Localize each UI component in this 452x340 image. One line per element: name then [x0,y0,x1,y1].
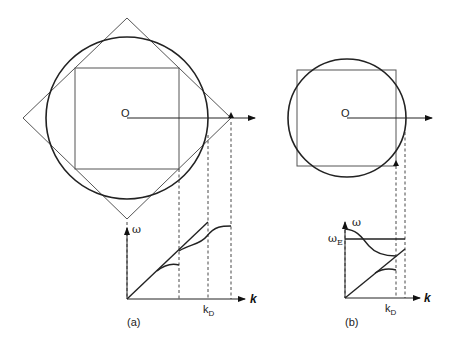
omega-label: ω [132,223,141,236]
origin-label-b: O [341,107,350,119]
branch-2 [179,226,231,251]
dispersion-diagram: O ω k kD (a) O ω [0,0,452,340]
kd-label-b: kD [385,302,397,317]
zone-edge-marker [228,112,234,118]
zone-edge-marker-b [393,160,399,166]
panel-a-zones: O [23,18,255,219]
panel-b-zones: O [288,59,432,177]
omega-label-b: ω [352,216,361,229]
panel-a-dispersion: ω k kD (a) [127,222,258,328]
optical-branch [345,229,396,256]
panel-b-dispersion: ω ωE k kD (b) [328,216,432,328]
caption-b: (b) [345,316,358,328]
folded-branch [375,269,396,273]
origin-label: O [121,107,130,119]
kd-label: kD [203,303,215,318]
k-label-b: k [424,291,432,305]
k-label: k [250,292,258,306]
caption-a: (a) [127,316,140,328]
omegaE-label: ωE [328,232,343,247]
